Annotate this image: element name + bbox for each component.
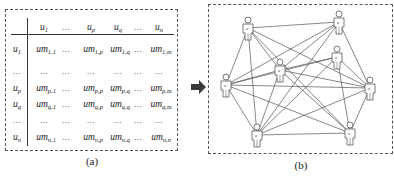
user-node-icon: u [252,124,262,147]
graph-edge [226,85,257,135]
user-node-icon: u [221,74,231,97]
svg-text:u: u [348,131,350,136]
graph-edge [226,85,370,88]
graph-edge [280,70,350,133]
user-node-icon: u [332,46,342,69]
user-node-icon: u [334,11,344,34]
svg-text:u: u [368,86,370,91]
graph-edge [248,28,257,135]
graph-edge [257,70,280,135]
svg-text:u: u [255,133,257,138]
user-graph: u u u u u u u u [0,0,394,176]
user-node-icon: u [275,59,285,82]
svg-text:u: u [278,68,280,73]
svg-text:u: u [246,26,248,31]
graph-edge [257,133,350,135]
svg-text:u: u [335,55,337,60]
graph-edge [248,22,339,28]
graph-edge [339,22,370,88]
svg-text:u: u [337,20,339,25]
graph-edge [248,28,370,88]
graph-edge [280,70,370,88]
caption-b: (b) [286,159,316,171]
svg-text:u: u [224,83,226,88]
